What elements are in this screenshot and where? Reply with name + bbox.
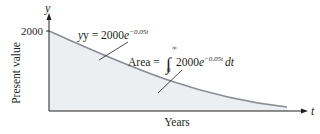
curve-eq-lhs: y = 2000 <box>83 29 124 42</box>
curve-leader-line <box>99 42 128 60</box>
area-label: Area = <box>128 56 160 68</box>
t-axis-symbol: t <box>311 104 315 118</box>
area-dt: dt <box>225 56 235 68</box>
integral-upper: ∞ <box>172 44 177 52</box>
chart: y t 2000 Present value Years yy = 2000e−… <box>0 0 320 134</box>
x-axis-arrow-icon <box>301 109 308 114</box>
area-integrand: 2000e−0.05tdt <box>176 55 235 68</box>
y-axis-symbol: y <box>44 1 51 15</box>
y-tick-label: 2000 <box>21 25 44 37</box>
curve-equation: yy = 2000e−0.05t <box>77 28 149 42</box>
area-exp: −0.05t <box>204 55 224 63</box>
x-axis-title: Years <box>164 116 190 128</box>
area-coef: 2000 <box>176 56 199 68</box>
y-axis-title: Present value <box>10 42 22 104</box>
curve-eq-exp: −0.05t <box>129 28 149 36</box>
integral-lower: 0 <box>167 66 171 74</box>
